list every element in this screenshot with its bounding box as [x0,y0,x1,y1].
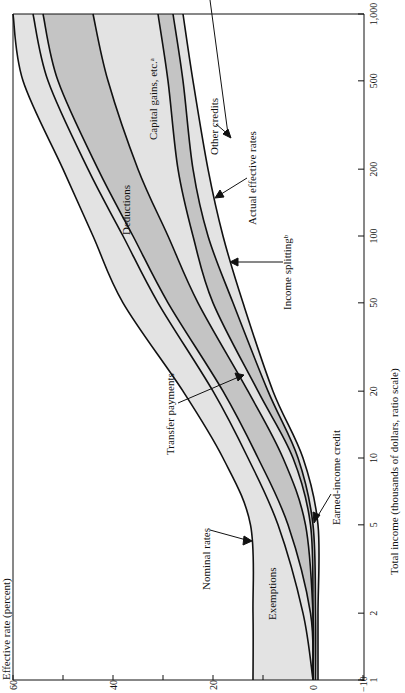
x-axis-label: Total income (thousands of dollars, rati… [388,368,401,575]
y-tick-label: 40 [108,680,119,690]
x-tick-label: 1,000 [368,3,379,26]
x-tick-label: 5 [368,522,379,527]
label-capital-gains: Capital gains, etc.ᵃ [147,58,159,140]
y-tick-label: 0 [308,685,319,690]
y-tick-label: 60 [8,680,19,690]
x-tick-label: 2 [368,611,379,616]
x-tick-label: 200 [368,162,379,177]
label-exemptions: Exemptions [266,567,278,620]
y-tick-label: 20 [208,680,219,690]
x-tick-label: 50 [368,298,379,308]
label-transfer-payments: Transfer payments [164,373,176,455]
y-axis-label: Effective rate (percent) [0,578,13,680]
label-deductions: Deductions [120,185,132,235]
x-tick-label: 20 [368,386,379,396]
label-income-splitting: Income splittingᵇ [281,234,293,310]
x-tick-label: 10 [368,453,379,463]
label-earned-income-credit: Earned-income credit [330,430,342,525]
label-nominal-rates: Nominal rates [200,528,212,590]
x-tick-label: 500 [368,73,379,88]
label-actual-effective-rates: Actual effective rates [246,131,258,225]
x-tick-label: 1 [368,678,379,683]
x-tick-label: 100 [368,229,379,244]
effective-rate-chart: −1002040601251020501002005001,000 Effect… [0,0,405,693]
